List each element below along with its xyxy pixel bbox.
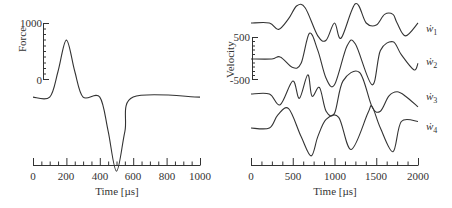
force-curve: [33, 40, 200, 171]
force-xtick: 200: [58, 171, 75, 182]
force-xtick: 600: [125, 171, 142, 182]
velocity-curves: [251, 3, 418, 155]
force-ytick-1000: 1000: [14, 18, 42, 29]
velocity-y-label: Velocity: [225, 41, 236, 78]
force-x-label: Time [µs]: [95, 186, 139, 197]
force-xtick: 800: [159, 171, 176, 182]
force-ytick-0: 0: [14, 75, 42, 86]
force-y-label: Force: [17, 27, 28, 52]
velocity-xtick: 1500: [365, 171, 387, 182]
force-xtick: 400: [92, 171, 109, 182]
legend-w4: ẇ4: [426, 121, 437, 135]
velocity-x-axis: [251, 158, 419, 166]
velocity-ytick-500: 500: [220, 32, 250, 43]
legend-w3: ẇ3: [426, 91, 437, 105]
velocity-curve-1: [251, 3, 418, 41]
force-y-axis: [44, 23, 50, 80]
force-x-axis: [33, 158, 201, 166]
velocity-x-label: Time [µs]: [313, 186, 357, 197]
velocity-ytick-neg500: -500: [218, 75, 250, 86]
velocity-xtick: 0: [248, 171, 254, 182]
legend-w2: ẇ2: [426, 56, 437, 70]
velocity-xtick: 500: [285, 171, 302, 182]
legend-w1: ẇ1: [426, 23, 437, 37]
velocity-xtick: 1000: [324, 171, 346, 182]
velocity-xtick: 2000: [407, 171, 429, 182]
velocity-curve-3: [251, 71, 418, 116]
velocity-curve-2: [251, 33, 418, 87]
force-xtick: 0: [30, 171, 36, 182]
force-xtick: 1000: [189, 171, 211, 182]
